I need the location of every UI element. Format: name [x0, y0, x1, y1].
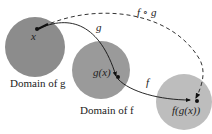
domain-g-label: Domain of g [10, 77, 66, 89]
point-gx [116, 75, 120, 79]
label-fgx: f(g(x)) [172, 104, 200, 117]
point-fgx [195, 99, 199, 103]
label-g-arrow: g [96, 21, 102, 33]
composition-diagram: x g(x) f(g(x)) g f f ∘ g Domain of g Dom… [0, 0, 212, 134]
domain-g-circle [5, 17, 65, 77]
label-f-arrow: f [146, 76, 151, 88]
label-gx: g(x) [93, 66, 111, 79]
domain-f-label: Domain of f [80, 104, 134, 116]
label-x: x [30, 30, 36, 42]
label-fog-arrow: f ∘ g [137, 6, 157, 18]
range-circle [156, 74, 212, 130]
